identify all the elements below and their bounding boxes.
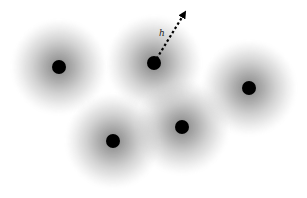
particle-p4: [175, 120, 189, 134]
kernel-layer: [11, 15, 297, 189]
smoothing-length-label: h: [159, 28, 165, 38]
particle-p1: [52, 60, 66, 74]
kernel-diagram: h: [0, 0, 307, 198]
particle-p3: [242, 81, 256, 95]
diagram-canvas: h: [0, 0, 307, 198]
particle-p5: [106, 134, 120, 148]
